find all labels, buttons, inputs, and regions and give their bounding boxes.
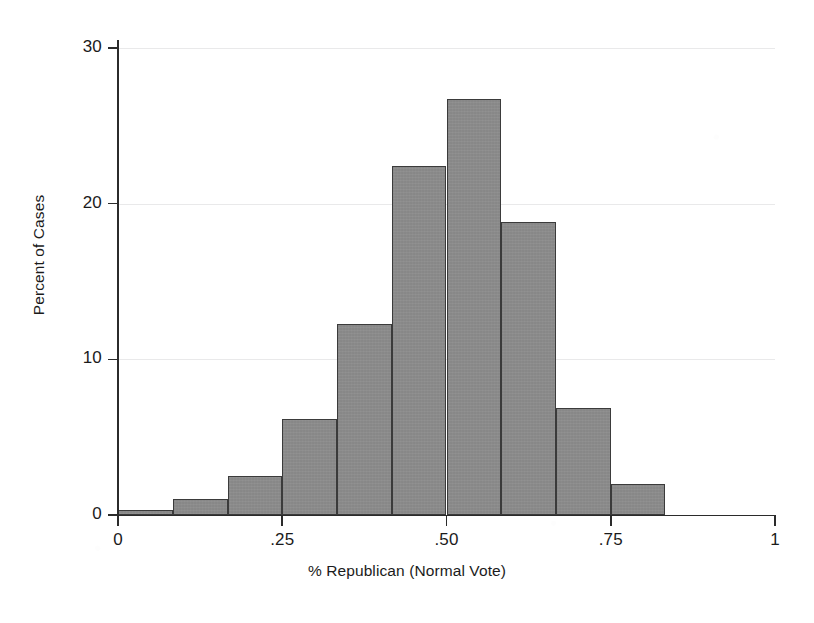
- x-tick-label: .75: [571, 530, 651, 550]
- x-tick-label: 1: [735, 530, 814, 550]
- x-tick-label: 0: [78, 530, 158, 550]
- y-tick-mark: [108, 359, 117, 361]
- y-tick-mark: [108, 514, 117, 516]
- histogram-bar: [501, 222, 556, 515]
- y-tick-label: 10: [40, 348, 102, 368]
- x-tick-mark: [281, 516, 283, 526]
- histogram-figure: 0102030 0.25.50.751 Percent of Cases % R…: [0, 0, 814, 623]
- y-axis-line: [117, 40, 119, 516]
- histogram-bar: [556, 408, 611, 515]
- x-tick-mark: [774, 516, 776, 526]
- x-tick-label: .50: [407, 530, 487, 550]
- histogram-bar: [392, 166, 447, 515]
- histogram-bar: [611, 484, 666, 515]
- histogram-bar: [282, 419, 337, 516]
- x-tick-label: .25: [242, 530, 322, 550]
- y-tick-mark: [108, 203, 117, 205]
- histogram-bar: [447, 99, 502, 515]
- x-tick-mark: [446, 516, 448, 526]
- y-tick-label: 30: [40, 37, 102, 57]
- histogram-bar: [337, 324, 392, 515]
- y-tick-label: 20: [40, 193, 102, 213]
- x-axis-title: % Republican (Normal Vote): [0, 562, 814, 580]
- x-tick-mark: [610, 516, 612, 526]
- y-tick-mark: [108, 47, 117, 49]
- histogram-bar: [173, 499, 228, 515]
- y-axis-title: Percent of Cases: [30, 85, 48, 425]
- x-tick-mark: [117, 516, 119, 526]
- histogram-bar: [228, 476, 283, 515]
- y-tick-label: 0: [40, 504, 102, 524]
- plot-area: [118, 40, 775, 515]
